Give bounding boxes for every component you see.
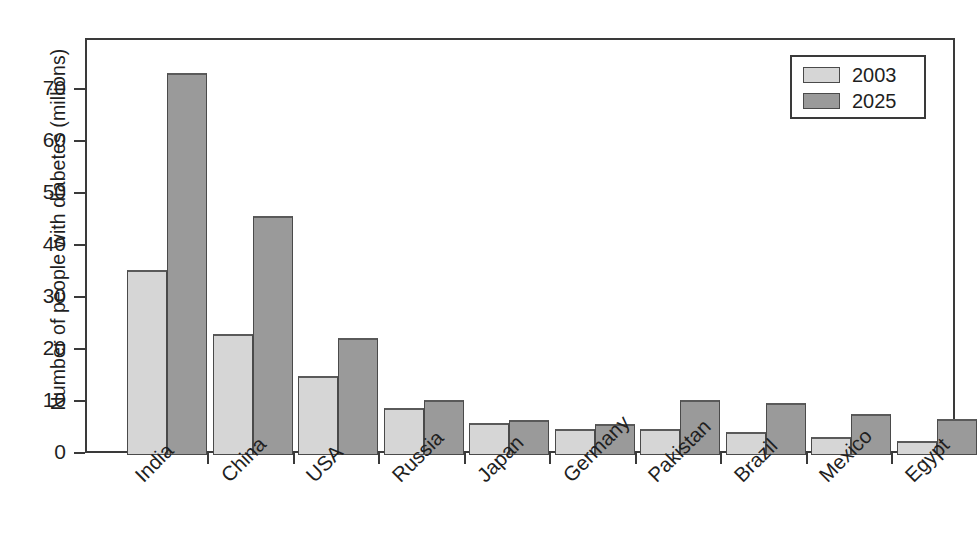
x-tick-mark bbox=[806, 453, 808, 464]
y-tick-label: 30 bbox=[43, 284, 66, 308]
bar-india-2003 bbox=[127, 270, 167, 455]
y-tick-mark bbox=[74, 244, 85, 246]
y-tick-mark bbox=[74, 140, 85, 142]
bar-china-2003 bbox=[213, 334, 253, 455]
y-tick-mark bbox=[74, 348, 85, 350]
legend-label-2003: 2003 bbox=[852, 65, 897, 85]
y-tick-mark bbox=[74, 88, 85, 90]
y-tick-label: 60 bbox=[43, 128, 66, 152]
x-tick-mark bbox=[891, 453, 893, 464]
bar-china-2025 bbox=[253, 216, 293, 455]
x-tick-mark bbox=[635, 453, 637, 464]
y-tick-mark bbox=[74, 400, 85, 402]
y-tick-mark bbox=[74, 192, 85, 194]
x-tick-mark bbox=[549, 453, 551, 464]
legend-label-2025: 2025 bbox=[852, 91, 897, 111]
x-tick-mark bbox=[464, 453, 466, 464]
legend-item-2025: 2025 bbox=[803, 89, 924, 113]
x-tick-mark bbox=[720, 453, 722, 464]
y-tick-mark bbox=[74, 452, 85, 454]
y-tick-label: 40 bbox=[43, 232, 66, 256]
bar-india-2025 bbox=[167, 73, 207, 455]
y-tick-label: 10 bbox=[43, 388, 66, 412]
x-tick-mark bbox=[207, 453, 209, 464]
chart-legend: 20032025 bbox=[790, 55, 926, 119]
y-tick-label: 50 bbox=[43, 180, 66, 204]
y-tick-label: 0 bbox=[54, 440, 66, 464]
x-tick-mark bbox=[293, 453, 295, 464]
y-tick-label: 70 bbox=[43, 76, 66, 100]
legend-item-2003: 2003 bbox=[803, 63, 924, 87]
bar-usa-2025 bbox=[338, 338, 378, 455]
x-tick-mark bbox=[378, 453, 380, 464]
y-tick-label: 20 bbox=[43, 336, 66, 360]
legend-swatch-2025 bbox=[803, 93, 840, 109]
legend-swatch-2003 bbox=[803, 67, 840, 83]
y-tick-mark bbox=[74, 296, 85, 298]
